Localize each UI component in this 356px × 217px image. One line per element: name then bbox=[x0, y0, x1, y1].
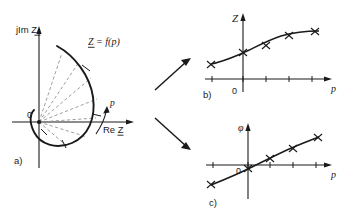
panel-c-y-axis-label: φ bbox=[238, 122, 244, 133]
figure-root: jIm Z Re Z 0 Z = f(p) p a) bbox=[0, 0, 356, 217]
panel-c-letter: c) bbox=[209, 197, 217, 208]
panel-a-x-axis-label: Re Z bbox=[103, 124, 124, 135]
panel-a-parameter-label: p bbox=[109, 98, 115, 108]
panel-a-origin-dot bbox=[37, 120, 41, 124]
panel-c-x-axis-label: p bbox=[330, 169, 336, 180]
panel-b-x-axis-label: p bbox=[330, 83, 336, 94]
figure-svg: jIm Z Re Z 0 Z = f(p) p a) bbox=[0, 0, 356, 217]
panel-a-curve-label: Z = f(p) bbox=[88, 36, 120, 48]
panel-b-y-axis-label: Z bbox=[232, 12, 239, 24]
panel-a-origin-label: 0 bbox=[27, 110, 32, 120]
panel-b-origin-label: 0 bbox=[232, 86, 237, 96]
panel-a-letter: a) bbox=[14, 155, 22, 166]
panel-b-letter: b) bbox=[203, 89, 211, 100]
panel-c-origin-label: 0 bbox=[236, 166, 241, 176]
panel-a-y-axis-label: jIm Z bbox=[15, 24, 37, 35]
